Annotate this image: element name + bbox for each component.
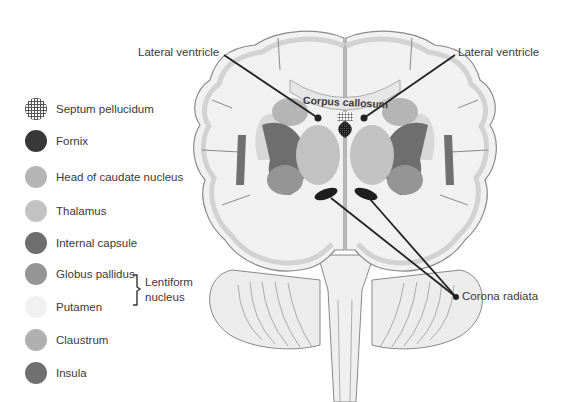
legend-item-thalamus: Thalamus: [25, 200, 107, 222]
legend-label: Claustrum: [56, 334, 108, 346]
circle-swatch-icon: [25, 166, 47, 188]
circle-swatch-icon: [25, 263, 47, 285]
label-lateral-ventricle-left: Lateral ventricle: [138, 46, 219, 58]
legend-item-putamen: Putamen: [25, 296, 102, 318]
legend-item-globus-pallidus: Globus pallidus: [25, 263, 135, 285]
legend-label: Fornix: [56, 135, 88, 147]
label-corona-radiata: Corona radiata: [462, 290, 538, 302]
circle-swatch-icon: [25, 329, 47, 351]
legend-label: Putamen: [56, 301, 102, 313]
crosshatch-swatch-icon: [25, 98, 47, 120]
legend-label: Septum pellucidum: [56, 103, 154, 115]
dotted-swatch-icon: [25, 130, 47, 152]
legend-label: Thalamus: [56, 205, 107, 217]
septum-pellucidum: [337, 112, 353, 121]
legend-item-claustrum: Claustrum: [25, 329, 108, 351]
legend-item-fornix: Fornix: [25, 130, 88, 152]
legend-item-septum-pellucidum: Septum pellucidum: [25, 98, 154, 120]
lentiform-nucleus-label: Lentiform nucleus: [145, 275, 193, 305]
circle-swatch-icon: [25, 296, 47, 318]
legend-label: Internal capsule: [56, 237, 137, 249]
legend-item-insula: Insula: [25, 362, 87, 384]
lentiform-label-line1: Lentiform: [145, 275, 193, 290]
legend-label: Head of caudate nucleus: [56, 171, 183, 183]
circle-swatch-icon: [25, 200, 47, 222]
circle-swatch-icon: [25, 362, 47, 384]
brainstem: [318, 255, 374, 402]
legend-item-head-of-caudate: Head of caudate nucleus: [25, 166, 183, 188]
legend-label: Globus pallidus: [56, 268, 135, 280]
label-lateral-ventricle-right: Lateral ventricle: [458, 46, 539, 58]
circle-swatch-icon: [25, 232, 47, 254]
legend-item-internal-capsule: Internal capsule: [25, 232, 137, 254]
lentiform-label-line2: nucleus: [145, 290, 193, 305]
legend-label: Insula: [56, 367, 87, 379]
